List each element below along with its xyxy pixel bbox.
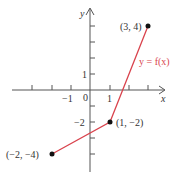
point-neg2-neg4: [50, 152, 55, 157]
tick-label-x1: 1: [107, 93, 112, 104]
graph-canvas: y x −1 0 1 1 −2 (−2, −4) (1, −2) (3, 4) …: [0, 0, 176, 176]
x-axis-label: x: [160, 93, 166, 104]
tick-label-origin: 0: [83, 92, 88, 103]
point-label-3-4: (3, 4): [120, 21, 142, 33]
tick-label-yneg2: −2: [74, 117, 85, 128]
tick-label-neg1: −1: [62, 93, 73, 104]
y-axis-label: y: [79, 8, 85, 19]
point-1-neg2: [108, 120, 113, 125]
tick-label-y1: 1: [82, 69, 87, 80]
function-label: y = f(x): [139, 56, 170, 68]
point-label-neg2-neg4: (−2, −4): [6, 149, 39, 161]
point-label-1-neg2: (1, −2): [116, 117, 143, 129]
point-3-4: [146, 24, 151, 29]
